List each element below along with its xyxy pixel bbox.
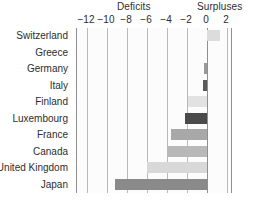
bar-chart: Deficits Surpluses −12−10−8−6−4−202 Swit… — [0, 0, 273, 207]
x-tick-label: −2 — [180, 14, 191, 25]
x-tick-label: −10 — [98, 14, 115, 25]
y-tick-label: Switzerland — [16, 28, 68, 45]
x-axis-tick-labels: −12−10−8−6−4−202 — [0, 14, 273, 28]
bar — [171, 129, 207, 140]
bar — [167, 146, 207, 157]
x-tick-label: 0 — [203, 14, 209, 25]
y-tick-label: Japan — [41, 177, 68, 194]
bar-row — [77, 160, 231, 177]
y-tick-label: United Kingdom — [0, 160, 68, 177]
y-axis-category-labels: SwitzerlandGreeceGermanyItalyFinlandLuxe… — [0, 28, 72, 193]
bar — [185, 113, 207, 124]
bar — [188, 96, 207, 107]
y-tick-label: Greece — [35, 45, 68, 62]
bar — [115, 179, 207, 190]
x-tick-label: −8 — [120, 14, 131, 25]
y-tick-label: Italy — [50, 78, 68, 95]
bar — [147, 162, 207, 173]
y-tick-label: Finland — [35, 94, 68, 111]
bar-row — [77, 94, 231, 111]
bar-row — [77, 111, 231, 128]
bar-row — [77, 144, 231, 161]
bar-row — [77, 127, 231, 144]
y-tick-label: France — [37, 127, 68, 144]
y-tick-label: Luxembourg — [12, 111, 68, 128]
bar — [207, 30, 220, 41]
bar-row — [77, 28, 231, 45]
bar-row — [77, 78, 231, 95]
surpluses-band-label: Surpluses — [197, 1, 242, 12]
x-tick-label: −12 — [78, 14, 95, 25]
bar — [204, 63, 207, 74]
bar-rows — [77, 28, 231, 193]
bar-row — [77, 61, 231, 78]
x-tick-label: 2 — [223, 14, 229, 25]
plot-area — [76, 28, 232, 193]
bar-row — [77, 177, 231, 194]
bar-row — [77, 45, 231, 62]
x-tick-label: −4 — [160, 14, 171, 25]
y-tick-label: Canada — [33, 144, 68, 161]
deficits-band-label: Deficits — [117, 1, 151, 12]
x-tick-label: −6 — [140, 14, 151, 25]
y-tick-label: Germany — [27, 61, 68, 78]
bar — [203, 80, 207, 91]
